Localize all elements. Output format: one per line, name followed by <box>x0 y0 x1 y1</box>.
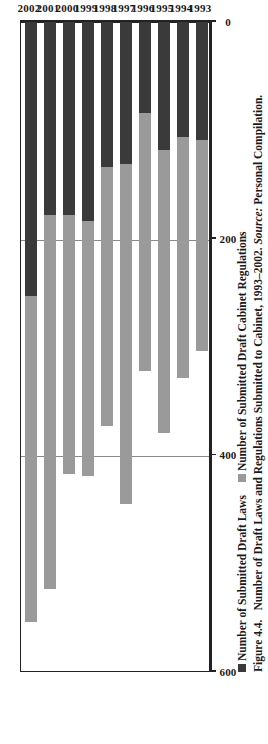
value-tick-400 <box>210 454 216 456</box>
bar-segment-1999-draft-laws <box>82 21 94 221</box>
source-value: Personal Compilation. <box>252 95 264 205</box>
value-label-200: 200 <box>219 233 236 245</box>
bar-segment-1997-draft-laws <box>120 21 132 164</box>
bar-1994 <box>177 21 189 379</box>
caption-text: Number of Draft Laws and Regulations Sub… <box>252 247 264 610</box>
value-label-0: 0 <box>225 16 231 28</box>
figure-4-4: 1993199419951996199719981999200020012002… <box>0 0 268 744</box>
bar-segment-2001-cabinet-regulations <box>44 215 56 589</box>
bar-2000 <box>63 21 75 474</box>
value-tick-200 <box>210 237 216 239</box>
value-tick-0 <box>210 21 216 23</box>
bar-segment-1997-cabinet-regulations <box>120 164 132 504</box>
bar-1993 <box>196 21 208 351</box>
rotated-figure-wrapper: 1993199419951996199719981999200020012002… <box>0 0 268 744</box>
legend-item-1: Number of Submitted Draft Cabinet Regula… <box>236 231 248 482</box>
bar-segment-1996-draft-laws <box>139 21 151 113</box>
source-label: Source: <box>252 208 264 245</box>
bar-segment-1994-draft-laws <box>177 21 189 137</box>
legend-swatch-cabinet-regulations <box>238 474 246 482</box>
bar-2001 <box>44 21 56 589</box>
bar-segment-1995-draft-laws <box>158 21 170 150</box>
bar-segment-1996-cabinet-regulations <box>139 113 151 371</box>
plot-area <box>20 22 210 672</box>
bar-1998 <box>101 21 113 426</box>
bar-segment-1998-draft-laws <box>101 21 113 167</box>
legend-label-1: Number of Submitted Draft Cabinet Regula… <box>236 231 248 471</box>
bar-segment-1993-cabinet-regulations <box>196 140 208 351</box>
legend-label-0: Number of Submitted Draft Laws <box>236 495 248 661</box>
bar-segment-2000-cabinet-regulations <box>63 215 75 474</box>
bar-1996 <box>139 21 151 371</box>
bar-series-container <box>21 23 209 671</box>
bar-1999 <box>82 21 94 476</box>
bar-segment-1993-draft-laws <box>196 21 208 140</box>
legend-swatch-draft-laws <box>238 664 246 672</box>
value-axis-line <box>20 20 210 22</box>
value-label-600: 600 <box>219 666 236 678</box>
bar-segment-2002-cabinet-regulations <box>25 296 37 622</box>
bar-segment-2001-draft-laws <box>44 21 56 215</box>
value-label-400: 400 <box>219 449 236 461</box>
bar-segment-1994-cabinet-regulations <box>177 137 189 379</box>
bar-segment-1998-cabinet-regulations <box>101 167 113 426</box>
bar-segment-2000-draft-laws <box>63 21 75 215</box>
bar-segment-1999-cabinet-regulations <box>82 221 94 476</box>
figure-number: Figure 4.4. <box>252 620 264 673</box>
bar-1997 <box>120 21 132 504</box>
category-label-2002: 2002 <box>17 2 40 14</box>
value-tick-600 <box>210 671 216 673</box>
figure-caption: Figure 4.4.Number of Draft Laws and Regu… <box>252 95 264 672</box>
legend-item-0: Number of Submitted Draft Laws <box>236 495 248 672</box>
chart-legend: Number of Submitted Draft LawsNumber of … <box>236 231 248 672</box>
bar-1995 <box>158 21 170 433</box>
bar-segment-2002-draft-laws <box>25 21 37 296</box>
category-axis-line <box>210 22 212 672</box>
bar-segment-1995-cabinet-regulations <box>158 150 170 433</box>
bar-2002 <box>25 21 37 622</box>
